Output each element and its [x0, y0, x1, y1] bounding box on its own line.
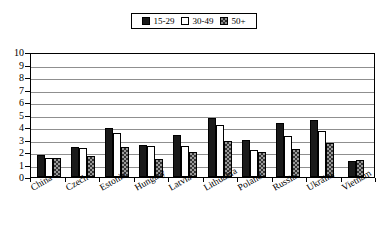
legend-label-50-plus: 50+ — [231, 17, 245, 26]
legend-item-30-49: 30-49 — [181, 17, 213, 26]
chart-legend: 15-29 30-49 50+ — [131, 13, 257, 29]
legend-swatch-icon-15-29 — [142, 17, 150, 25]
bar-groups — [31, 54, 374, 177]
legend-item-50-plus: 50+ — [220, 17, 245, 26]
bar — [87, 156, 95, 177]
bar-group — [271, 54, 305, 177]
bar-group — [237, 54, 271, 177]
y-tick-label: 10 — [14, 48, 24, 58]
bar — [242, 140, 250, 178]
y-tick-label: 4 — [19, 123, 24, 133]
y-tick-label: 7 — [19, 86, 24, 96]
plot-area — [30, 53, 375, 178]
legend-label-30-49: 30-49 — [192, 17, 213, 26]
legend-swatch-icon-30-49 — [181, 17, 189, 25]
bar-group — [32, 54, 66, 177]
y-tick-label: 5 — [19, 111, 24, 121]
y-tick-label: 6 — [19, 98, 24, 108]
bar — [216, 125, 224, 177]
bar — [71, 147, 79, 177]
y-tick-label: 1 — [19, 161, 24, 171]
bar — [189, 152, 197, 177]
y-tick-label: 9 — [19, 61, 24, 71]
bar — [310, 120, 318, 177]
y-axis: 109876543210 — [0, 46, 28, 186]
bar — [53, 158, 61, 177]
legend-swatch-icon-50-plus — [220, 17, 228, 25]
bar — [105, 128, 113, 177]
bar — [139, 145, 147, 178]
bar — [208, 118, 216, 177]
bar — [318, 131, 326, 177]
y-tick-label: 3 — [19, 136, 24, 146]
legend-label-15-29: 15-29 — [153, 17, 174, 26]
bar-group — [202, 54, 236, 177]
bar-group — [134, 54, 168, 177]
bar — [173, 135, 181, 177]
bar-group — [168, 54, 202, 177]
bar — [276, 123, 284, 177]
legend-item-15-29: 15-29 — [142, 17, 174, 26]
y-tick-label: 2 — [19, 148, 24, 158]
bar-group — [100, 54, 134, 177]
bar-group — [339, 54, 373, 177]
bar-group — [305, 54, 339, 177]
bar — [37, 155, 45, 178]
bar-group — [66, 54, 100, 177]
y-tick-label: 8 — [19, 73, 24, 83]
bar — [284, 136, 292, 177]
x-axis-labels: ChinaCzechEstoniaHungaryLatviaLithuaniaP… — [0, 178, 388, 234]
